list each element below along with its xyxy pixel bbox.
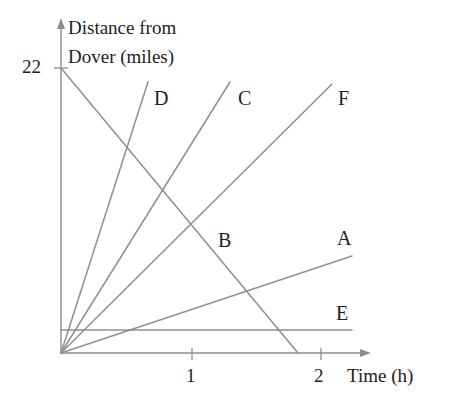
- series-label-B: B: [218, 230, 231, 250]
- series-label-D: D: [154, 88, 168, 108]
- series-label-A: A: [337, 228, 351, 248]
- series-label-C: C: [238, 88, 251, 108]
- distance-time-graph: Distance from Dover (miles) Time (h) 22 …: [0, 0, 457, 415]
- series-line-C: [61, 82, 148, 353]
- x-tick-label-2: 2: [314, 366, 324, 385]
- y-axis-title-line-1: Distance from: [68, 18, 176, 37]
- series-line-F: [61, 84, 332, 353]
- series-label-E: E: [336, 303, 348, 323]
- series-line-B: [61, 82, 230, 353]
- series-label-F: F: [338, 88, 349, 108]
- y-tick-label-22: 22: [22, 57, 41, 76]
- series-line-D: [61, 68, 298, 353]
- x-axis-title: Time (h): [347, 366, 413, 385]
- x-tick-label-1: 1: [186, 366, 196, 385]
- y-axis-title-line-2: Dover (miles): [68, 47, 174, 66]
- series-line-A: [61, 256, 352, 353]
- x-axis: [61, 349, 371, 357]
